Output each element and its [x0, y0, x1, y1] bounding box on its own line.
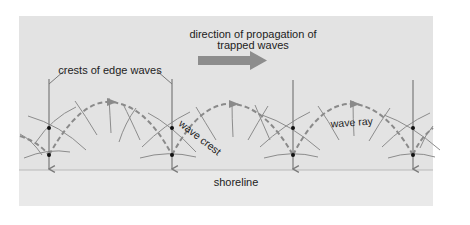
shoreline-label: shoreline	[214, 176, 259, 188]
edge-wave-diagram: direction of propagation of trapped wave…	[0, 0, 470, 225]
direction-label-line2: trapped waves	[217, 39, 289, 51]
crests-of-edge-waves-label: crests of edge waves	[58, 64, 162, 76]
